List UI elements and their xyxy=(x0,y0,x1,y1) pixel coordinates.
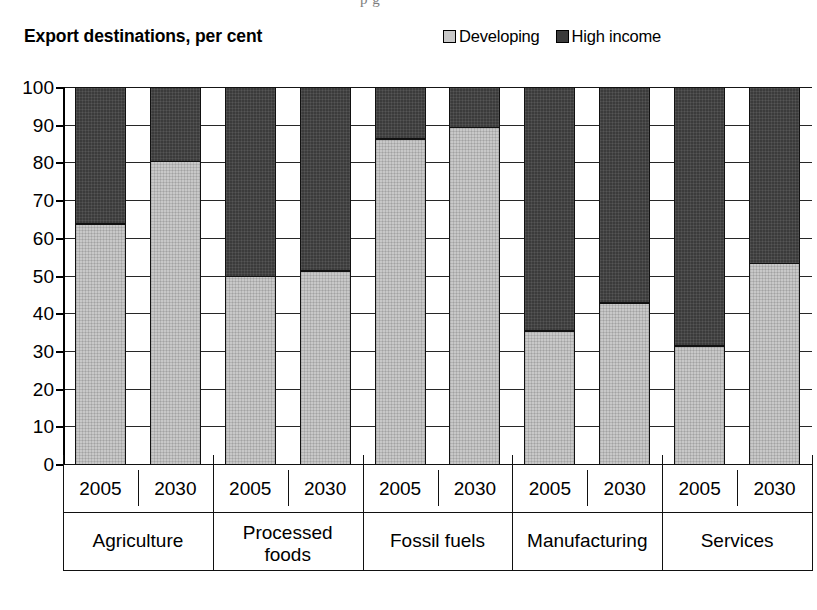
plot-area: 0102030405060708090100 20052030200520302… xyxy=(0,0,817,610)
stacked-bar xyxy=(300,87,351,465)
x-axis-year-label: 2005 xyxy=(63,479,138,498)
x-axis-year-label: 2005 xyxy=(363,479,438,498)
bar-segment-divider xyxy=(750,263,799,265)
y-axis-tick xyxy=(56,351,63,353)
bar-segment-divider xyxy=(675,345,724,347)
bar-segment-high-income xyxy=(301,88,350,271)
x-axis-group-label: Manufacturing xyxy=(512,530,662,552)
y-axis-tick xyxy=(56,238,63,240)
stacked-bar xyxy=(599,87,650,465)
bar-segment-developing xyxy=(675,346,724,465)
x-axis-tick xyxy=(512,455,513,464)
bar-segment-developing xyxy=(301,271,350,465)
bar-segment-developing xyxy=(600,303,649,465)
bar-segment-high-income xyxy=(376,88,425,139)
bar-segment-divider xyxy=(226,276,275,278)
y-axis-tick-label: 40 xyxy=(33,304,54,323)
bar-segment-developing xyxy=(450,128,499,465)
x-axis-line xyxy=(63,464,813,465)
chart-root: p g Export destinations, per cent Develo… xyxy=(0,0,817,610)
x-axis-year-label: 2030 xyxy=(587,479,662,498)
y-axis-labels: 0102030405060708090100 xyxy=(0,0,62,610)
y-axis-tick-label: 80 xyxy=(33,153,54,172)
y-axis-tick xyxy=(56,87,63,89)
bar-segment-high-income xyxy=(525,88,574,331)
y-axis-tick-label: 20 xyxy=(33,379,54,398)
bar-segment-developing xyxy=(151,162,200,465)
y-axis-tick xyxy=(56,389,63,391)
bar-segment-developing xyxy=(750,263,799,465)
bar-segment-high-income xyxy=(450,88,499,128)
x-axis-year-label: 2030 xyxy=(138,479,213,498)
y-axis-tick-label: 90 xyxy=(33,115,54,134)
bar-segment-high-income xyxy=(675,88,724,346)
x-axis-tick xyxy=(363,455,364,464)
stacked-bar xyxy=(150,87,201,465)
stacked-bar xyxy=(749,87,800,465)
stacked-bar xyxy=(375,87,426,465)
x-axis-year-label: 2030 xyxy=(438,479,513,498)
y-axis-tick xyxy=(56,276,63,278)
bar-segment-high-income xyxy=(226,88,275,277)
y-axis-line xyxy=(63,87,65,465)
bar-segment-developing xyxy=(376,139,425,465)
bar-segment-high-income xyxy=(151,88,200,162)
bar-segment-divider xyxy=(376,138,425,140)
category-group-separator xyxy=(812,464,813,570)
stacked-bar xyxy=(75,87,126,465)
x-axis-group-label: Processed foods xyxy=(213,522,363,566)
category-table-rule xyxy=(63,570,813,571)
x-axis-year-label: 2030 xyxy=(288,479,363,498)
x-axis-year-label: 2005 xyxy=(662,479,737,498)
y-axis-tick xyxy=(56,464,63,466)
x-axis-group-label: Agriculture xyxy=(63,530,213,552)
y-axis-tick xyxy=(56,162,63,164)
y-axis-tick xyxy=(56,313,63,315)
y-axis-tick-label: 0 xyxy=(43,455,54,474)
y-axis-tick-label: 50 xyxy=(33,266,54,285)
bar-segment-developing xyxy=(525,331,574,465)
x-axis-group-label: Fossil fuels xyxy=(363,530,513,552)
y-axis-tick xyxy=(56,200,63,202)
y-axis-tick-label: 70 xyxy=(33,191,54,210)
bar-segment-divider xyxy=(151,161,200,163)
x-axis-year-label: 2005 xyxy=(213,479,288,498)
category-table-rule xyxy=(63,512,813,513)
y-axis-tick-label: 100 xyxy=(22,78,54,97)
y-axis-tick xyxy=(56,125,63,127)
y-axis-tick-label: 30 xyxy=(33,341,54,360)
x-axis-tick xyxy=(662,455,663,464)
x-axis-group-label: Services xyxy=(662,530,812,552)
bar-segment-developing xyxy=(76,224,125,465)
stacked-bar xyxy=(449,87,500,465)
bar-segment-divider xyxy=(450,127,499,129)
bar-segment-high-income xyxy=(76,88,125,224)
stacked-bar xyxy=(524,87,575,465)
stacked-bar xyxy=(225,87,276,465)
y-axis-tick-label: 10 xyxy=(33,417,54,436)
bar-segment-divider xyxy=(600,302,649,304)
x-axis-tick xyxy=(812,455,813,464)
x-axis-tick xyxy=(213,455,214,464)
x-axis-year-label: 2005 xyxy=(512,479,587,498)
bar-segment-developing xyxy=(226,277,275,466)
x-axis-year-label: 2030 xyxy=(737,479,812,498)
bar-segment-high-income xyxy=(600,88,649,303)
bar-segment-high-income xyxy=(750,88,799,263)
stacked-bar xyxy=(674,87,725,465)
y-axis-tick xyxy=(56,426,63,428)
x-axis-tick xyxy=(63,455,64,464)
y-axis-tick-label: 60 xyxy=(33,228,54,247)
bar-segment-divider xyxy=(525,330,574,332)
bar-segment-divider xyxy=(301,270,350,272)
bar-segment-divider xyxy=(76,223,125,225)
